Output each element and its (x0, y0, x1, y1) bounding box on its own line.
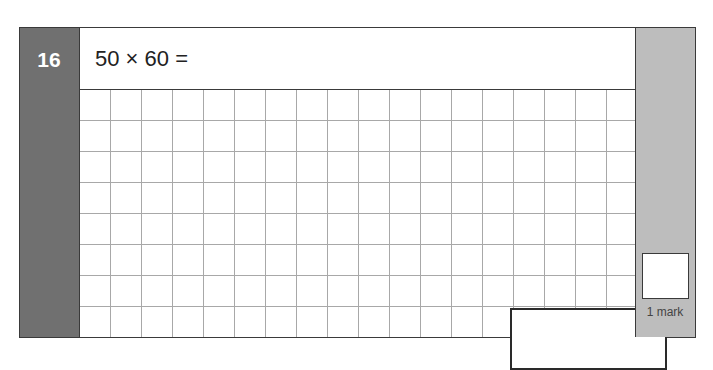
question-header: 50 × 60 = (80, 28, 637, 90)
marks-label: 1 mark (636, 305, 694, 319)
question-prompt: 50 × 60 = (95, 46, 188, 72)
question-card: 16 50 × 60 = 1 mark (19, 27, 696, 338)
question-number-column: 16 (20, 28, 80, 337)
working-grid (80, 90, 637, 337)
question-number: 16 (20, 48, 78, 72)
marks-column: 1 mark (635, 28, 695, 337)
mark-box (642, 253, 689, 299)
